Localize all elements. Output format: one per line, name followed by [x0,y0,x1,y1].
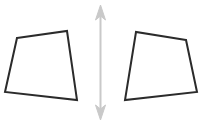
figure-canvas: Two congruent quadrilaterals reflected a… [0,0,206,125]
right-quadrilateral [125,32,197,100]
symmetry-diagram-svg: Two congruent quadrilaterals reflected a… [0,0,206,125]
left-quadrilateral [5,31,77,100]
